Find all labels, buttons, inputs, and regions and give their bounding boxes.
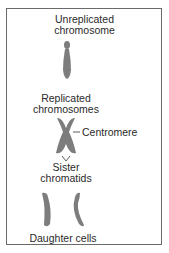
label-centromere: Centromere [82, 127, 137, 138]
unreplicated-chromosome-icon [63, 41, 71, 79]
label-daughter-cells: Daughter cells [0, 233, 126, 244]
label-chromosomes: chromosomes [0, 104, 132, 115]
label-chromatids: chromatids [0, 173, 132, 184]
daughter-chromatid-right-icon [74, 193, 84, 226]
replicated-chromosome-icon [56, 118, 76, 153]
daughter-chromatid-left-icon [42, 193, 51, 226]
